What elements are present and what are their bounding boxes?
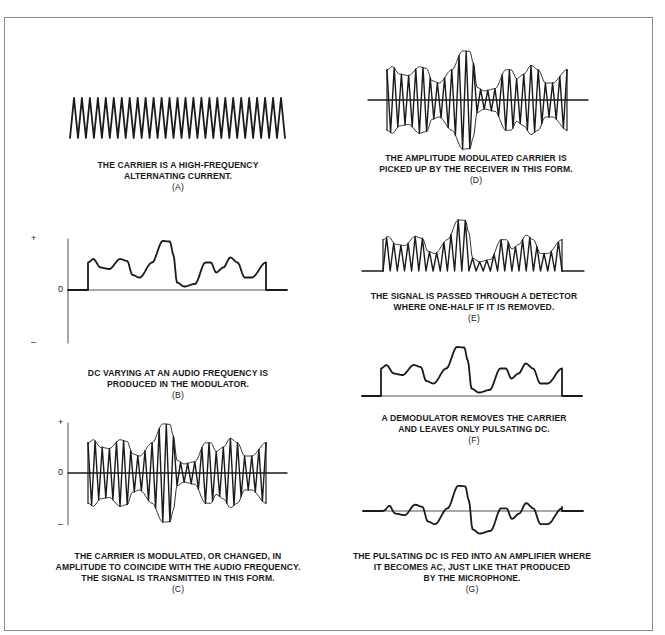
axis-zero-label-c: 0 xyxy=(58,468,63,477)
audio-dc-line xyxy=(68,241,287,290)
caption-a-line-1: THE CARRIER IS A HIGH-FREQUENCY xyxy=(98,160,259,171)
panel-label-c: (C) xyxy=(56,584,301,595)
panel-label-f: (F) xyxy=(381,435,566,446)
caption-a-line-2: ALTERNATING CURRENT. xyxy=(98,171,259,182)
half-wave-pulses xyxy=(383,220,562,271)
caption-d: THE AMPLITUDE MODULATED CARRIER IS PICKE… xyxy=(379,153,573,186)
caption-f-line-1: A DEMODULATOR REMOVES THE CARRIER xyxy=(381,413,566,424)
ac-audio-line xyxy=(363,486,583,534)
axis-plus-label-b: + xyxy=(31,234,36,243)
panel-label-d: (D) xyxy=(379,175,573,186)
caption-d-line-1: THE AMPLITUDE MODULATED CARRIER IS xyxy=(379,153,573,164)
panel-label-e: (E) xyxy=(371,313,578,324)
caption-a: THE CARRIER IS A HIGH-FREQUENCY ALTERNAT… xyxy=(98,160,259,193)
pulsating-dc-line xyxy=(362,347,582,396)
panel-label-g: (G) xyxy=(353,584,591,595)
panel-label-b: (B) xyxy=(88,390,268,401)
caption-c-line-2: AMPLITUDE TO COINCIDE WITH THE AUDIO FRE… xyxy=(56,562,301,573)
caption-c-line-1: THE CARRIER IS MODULATED, OR CHANGED, IN xyxy=(56,551,301,562)
lower-envelope xyxy=(387,109,567,149)
pulsating-dc-waveform-f xyxy=(362,347,582,396)
axis-minus-label-b: – xyxy=(31,338,36,347)
caption-g-line-3: BY THE MICROPHONE. xyxy=(353,573,591,584)
carrier-waveform-a xyxy=(70,98,285,138)
caption-g-line-1: THE PULSATING DC IS FED INTO AN AMPLIFIE… xyxy=(353,551,591,562)
detected-half-wave-e xyxy=(362,220,584,271)
caption-b-line-1: DC VARYING AT AN AUDIO FREQUENCY IS xyxy=(88,368,268,379)
modulated-carrier-waveform-c xyxy=(68,423,287,525)
caption-c-line-3: THE SIGNAL IS TRANSMITTED IN THIS FORM. xyxy=(56,573,301,584)
caption-b-line-2: PRODUCED IN THE MODULATOR. xyxy=(88,379,268,390)
dc-audio-waveform-b xyxy=(68,239,287,343)
upper-envelope xyxy=(88,424,266,464)
caption-g-line-2: IT BECOMES AC, JUST LIKE THAT PRODUCED xyxy=(353,562,591,573)
upper-envelope xyxy=(387,51,567,91)
audio-ac-waveform-g xyxy=(363,486,583,534)
caption-c: THE CARRIER IS MODULATED, OR CHANGED, IN… xyxy=(56,551,301,595)
carrier-zigzag xyxy=(70,98,285,138)
caption-f-line-2: AND LEAVES ONLY PULSATING DC. xyxy=(381,424,566,435)
caption-e: THE SIGNAL IS PASSED THROUGH A DETECTOR … xyxy=(371,291,578,324)
caption-g: THE PULSATING DC IS FED INTO AN AMPLIFIE… xyxy=(353,551,591,595)
axis-minus-label-c: – xyxy=(58,520,63,529)
caption-b: DC VARYING AT AN AUDIO FREQUENCY IS PROD… xyxy=(88,368,268,401)
caption-e-line-1: THE SIGNAL IS PASSED THROUGH A DETECTOR xyxy=(371,291,578,302)
lower-envelope xyxy=(88,482,266,522)
panel-label-a: (A) xyxy=(98,182,259,193)
axis-zero-label-b: 0 xyxy=(58,285,63,294)
received-am-waveform-d xyxy=(368,51,588,149)
caption-f: A DEMODULATOR REMOVES THE CARRIER AND LE… xyxy=(381,413,566,446)
axis-plus-label-c: + xyxy=(58,418,63,427)
caption-e-line-2: WHERE ONE-HALF IF IT IS REMOVED. xyxy=(371,302,578,313)
caption-d-line-2: PICKED UP BY THE RECEIVER IN THIS FORM. xyxy=(379,164,573,175)
